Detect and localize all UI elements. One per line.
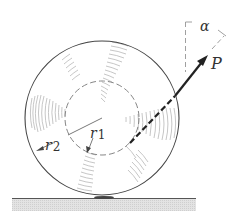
ground bbox=[12, 196, 196, 211]
shading-left bbox=[30, 95, 65, 132]
r1-dimension: r1 bbox=[68, 118, 105, 153]
spool-diagram: r1 r2 P α bbox=[0, 0, 241, 211]
shading-right bbox=[126, 108, 176, 140]
r2-arrow-icon bbox=[36, 146, 44, 151]
shading-bottom bbox=[76, 152, 96, 195]
shading-top bbox=[101, 42, 128, 102]
r1-label: r1 bbox=[90, 125, 105, 142]
shading-bottom-right bbox=[126, 146, 148, 182]
r2-dimension: r2 bbox=[36, 137, 60, 154]
wheel-shading bbox=[30, 42, 175, 195]
r2-label: r2 bbox=[45, 137, 60, 154]
force-arrow-icon bbox=[197, 55, 208, 66]
force-label: P bbox=[210, 54, 222, 73]
shading-top-left bbox=[62, 54, 80, 80]
alpha-label: α bbox=[200, 18, 210, 34]
